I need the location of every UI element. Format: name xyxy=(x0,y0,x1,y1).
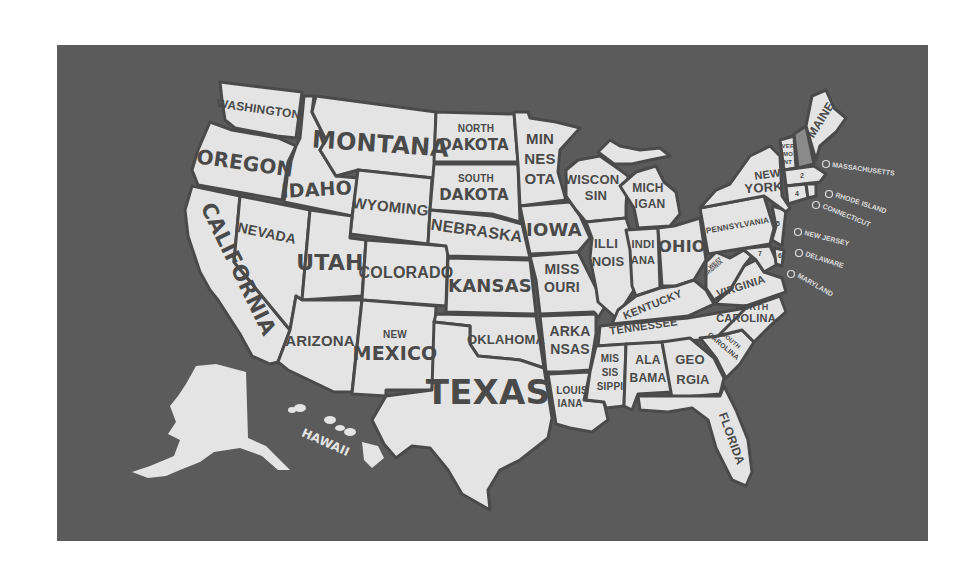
label-oklahoma: OKLAHOMA xyxy=(467,332,546,347)
state-michigan-up[interactable] xyxy=(598,140,670,164)
label-new-mexico-1: NEW xyxy=(383,329,407,340)
label-texas: TEXAS xyxy=(426,372,550,412)
label-new-york-2: YORK xyxy=(744,179,784,197)
label-ohio: OHIO xyxy=(658,237,705,256)
label-hawaii: HAWAII xyxy=(300,426,352,459)
label-michigan-1: MICH xyxy=(632,181,663,195)
label-arkansas-2: NSAS xyxy=(550,341,590,357)
callout-massachusetts: MASSACHUSETTS xyxy=(823,161,896,177)
label-colorado: COLORADO xyxy=(359,264,454,281)
label-georgia-2: RGIA xyxy=(676,372,710,387)
callout-new-jersey: NEW JERSEY xyxy=(795,229,851,248)
label-north-dakota-1: NORTH xyxy=(458,123,495,134)
svg-text:NEW JERSEY: NEW JERSEY xyxy=(804,229,851,247)
number-new-jersey: 5 xyxy=(776,220,780,227)
callout-delaware: DELAWARE xyxy=(796,250,845,270)
label-illinois-2: NOIS xyxy=(592,254,625,269)
label-alabama-2: BAMA xyxy=(630,371,667,385)
number-maryland: 7 xyxy=(758,250,762,257)
svg-text:MASSACHUSETTS: MASSACHUSETTS xyxy=(832,161,896,177)
label-vermont-2: MO xyxy=(783,151,793,157)
label-kansas: KANSAS xyxy=(448,275,532,296)
label-missouri-2: OURI xyxy=(544,279,580,295)
label-alabama-1: ALA xyxy=(635,353,660,367)
us-map: WASHINGTON OREGON CALIFORNIA NEVADA IDAH… xyxy=(0,0,978,571)
label-georgia-1: GEO xyxy=(675,352,705,367)
label-vermont-1: VER xyxy=(782,143,795,149)
label-arizona: ARIZONA xyxy=(285,332,355,349)
callout-maryland: MARYLAND xyxy=(788,271,835,298)
label-minnesota-3: OTA xyxy=(524,170,555,187)
label-south-dakota-2: DAKOTA xyxy=(439,186,509,204)
label-north-dakota-2: DAKOTA xyxy=(439,136,509,154)
label-north-carolina-1: NORTH xyxy=(736,302,769,312)
label-north-carolina-2: CAROLINA xyxy=(716,312,776,324)
label-vermont-3: NT xyxy=(784,159,793,165)
label-utah: UTAH xyxy=(296,250,363,275)
label-minnesota-1: MIN xyxy=(526,130,554,147)
label-mississippi-3: SIPPI xyxy=(597,381,624,392)
label-arkansas-1: ARKA xyxy=(549,323,590,339)
number-massachusetts: 2 xyxy=(800,172,804,179)
label-south-dakota-1: SOUTH xyxy=(458,173,494,184)
label-indiana-2: ANA xyxy=(631,254,655,266)
label-louisiana-1: LOUIS xyxy=(556,385,588,396)
label-michigan-2: IGAN xyxy=(635,197,666,211)
number-connecticut: 4 xyxy=(795,190,799,197)
state-rhode-island[interactable] xyxy=(806,184,816,198)
label-wisconsin-1: WISCON xyxy=(565,172,620,187)
label-louisiana-2: IANA xyxy=(557,398,582,409)
label-illinois-1: ILLI xyxy=(594,236,618,251)
label-idaho: IDAHO xyxy=(281,176,353,202)
label-minnesota-2: NES xyxy=(524,150,555,167)
label-mississippi-1: MIS xyxy=(601,353,620,364)
number-delaware: 6 xyxy=(778,252,782,259)
label-missouri-1: MISS xyxy=(544,261,579,277)
svg-text:MARYLAND: MARYLAND xyxy=(797,272,835,298)
label-mississippi-2: SIS xyxy=(602,367,619,378)
svg-text:DELAWARE: DELAWARE xyxy=(805,250,845,269)
label-new-mexico-2: MEXICO xyxy=(353,342,438,364)
label-wisconsin-2: SIN xyxy=(585,188,607,203)
label-iowa: IOWA xyxy=(526,219,582,240)
label-indiana-1: INDI xyxy=(632,238,655,250)
